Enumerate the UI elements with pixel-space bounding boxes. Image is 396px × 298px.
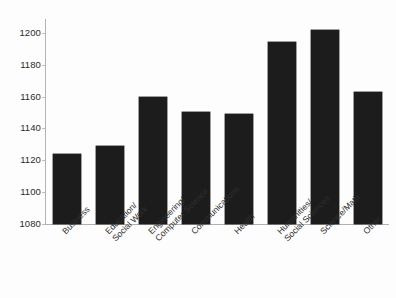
y-tick-mark bbox=[42, 33, 45, 34]
y-tick-label: 1180 bbox=[20, 60, 41, 70]
y-tick-label: 1120 bbox=[20, 155, 41, 165]
y-tick-mark bbox=[42, 224, 45, 225]
bar[interactable] bbox=[268, 42, 296, 224]
y-tick-mark bbox=[42, 97, 45, 98]
bar[interactable] bbox=[225, 114, 253, 224]
y-tick-mark bbox=[42, 128, 45, 129]
y-tick-label: 1080 bbox=[19, 219, 41, 229]
bar[interactable] bbox=[354, 92, 382, 224]
y-tick-mark bbox=[42, 65, 45, 66]
plot-area bbox=[45, 20, 389, 224]
y-tick-label: 1200 bbox=[19, 28, 41, 38]
y-tick-mark bbox=[42, 160, 45, 161]
y-tick-label: 1160 bbox=[20, 92, 41, 102]
y-tick-label: 1140 bbox=[20, 123, 41, 133]
y-tick-mark bbox=[42, 192, 45, 193]
y-tick-label: 1100 bbox=[20, 187, 41, 197]
y-axis-tick-labels: 1080110011201140116011801200 bbox=[0, 0, 41, 298]
x-axis-line bbox=[45, 224, 389, 225]
bar-chart-figure: 1080110011201140116011801200 BusinessEdu… bbox=[0, 0, 396, 298]
